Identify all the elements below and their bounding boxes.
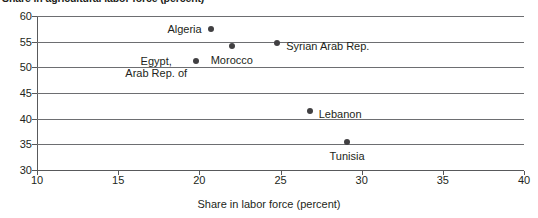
gridline-y-45 [37, 93, 524, 94]
point-label-subtext: Arab Rep. of [125, 67, 187, 79]
x-tick-mark-40 [524, 171, 525, 175]
point-label-algeria: Algeria [167, 23, 201, 35]
point-label-text: Morocco [211, 54, 253, 66]
y-tick-label-45: 45 [20, 87, 32, 99]
x-tick-label-35: 35 [437, 174, 449, 186]
point-label-egypt: Egypt,Arab Rep. of [125, 55, 187, 79]
x-tick-mark-15 [118, 171, 119, 175]
scatter-chart: Share in agricultural labor force (perce… [0, 0, 538, 218]
point-label-text: Egypt, [141, 55, 172, 67]
data-point-syrian-arab-rep[interactable] [274, 40, 280, 46]
data-point-morocco[interactable] [229, 43, 235, 49]
y-tick-mark-50 [32, 67, 37, 68]
y-tick-mark-35 [32, 144, 37, 145]
x-axis-title: Share in labor force (percent) [0, 198, 538, 210]
point-label-syrian-arab-rep: Syrian Arab Rep. [286, 40, 369, 52]
x-tick-label-40: 40 [518, 174, 530, 186]
x-tick-mark-20 [199, 171, 200, 175]
y-tick-label-60: 60 [20, 10, 32, 22]
point-label-text: Tunisia [330, 150, 365, 162]
data-point-tunisia[interactable] [344, 139, 350, 145]
x-tick-label-10: 10 [31, 174, 43, 186]
data-point-lebanon[interactable] [307, 108, 313, 114]
y-tick-mark-55 [32, 42, 37, 43]
gridline-y-50 [37, 67, 524, 68]
y-tick-mark-40 [32, 119, 37, 120]
x-tick-label-25: 25 [274, 174, 286, 186]
gridline-y-55 [37, 42, 524, 43]
data-point-algeria[interactable] [208, 26, 214, 32]
point-label-tunisia: Tunisia [330, 150, 365, 162]
y-tick-label-55: 55 [20, 36, 32, 48]
x-tick-label-15: 15 [112, 174, 124, 186]
y-tick-label-40: 40 [20, 113, 32, 125]
x-tick-mark-25 [281, 171, 282, 175]
y-tick-mark-45 [32, 93, 37, 94]
x-tick-mark-35 [443, 171, 444, 175]
point-label-text: Lebanon [319, 108, 362, 120]
chart-title: Share in agricultural labor force (perce… [2, 0, 204, 4]
x-tick-label-20: 20 [193, 174, 205, 186]
point-label-lebanon: Lebanon [319, 108, 362, 120]
y-tick-mark-60 [32, 16, 37, 17]
gridline-y-35 [37, 144, 524, 145]
point-label-text: Syrian Arab Rep. [286, 40, 369, 52]
y-tick-label-50: 50 [20, 61, 32, 73]
plot-area [37, 16, 524, 170]
y-tick-label-35: 35 [20, 138, 32, 150]
x-tick-mark-10 [37, 171, 38, 175]
x-tick-mark-30 [362, 171, 363, 175]
x-tick-label-30: 30 [356, 174, 368, 186]
gridline-y-60 [37, 16, 524, 17]
gridline-y-40 [37, 119, 524, 120]
point-label-morocco: Morocco [211, 54, 253, 66]
y-axis-ticks: 30354045505560 [0, 0, 32, 218]
point-label-text: Algeria [167, 23, 201, 35]
